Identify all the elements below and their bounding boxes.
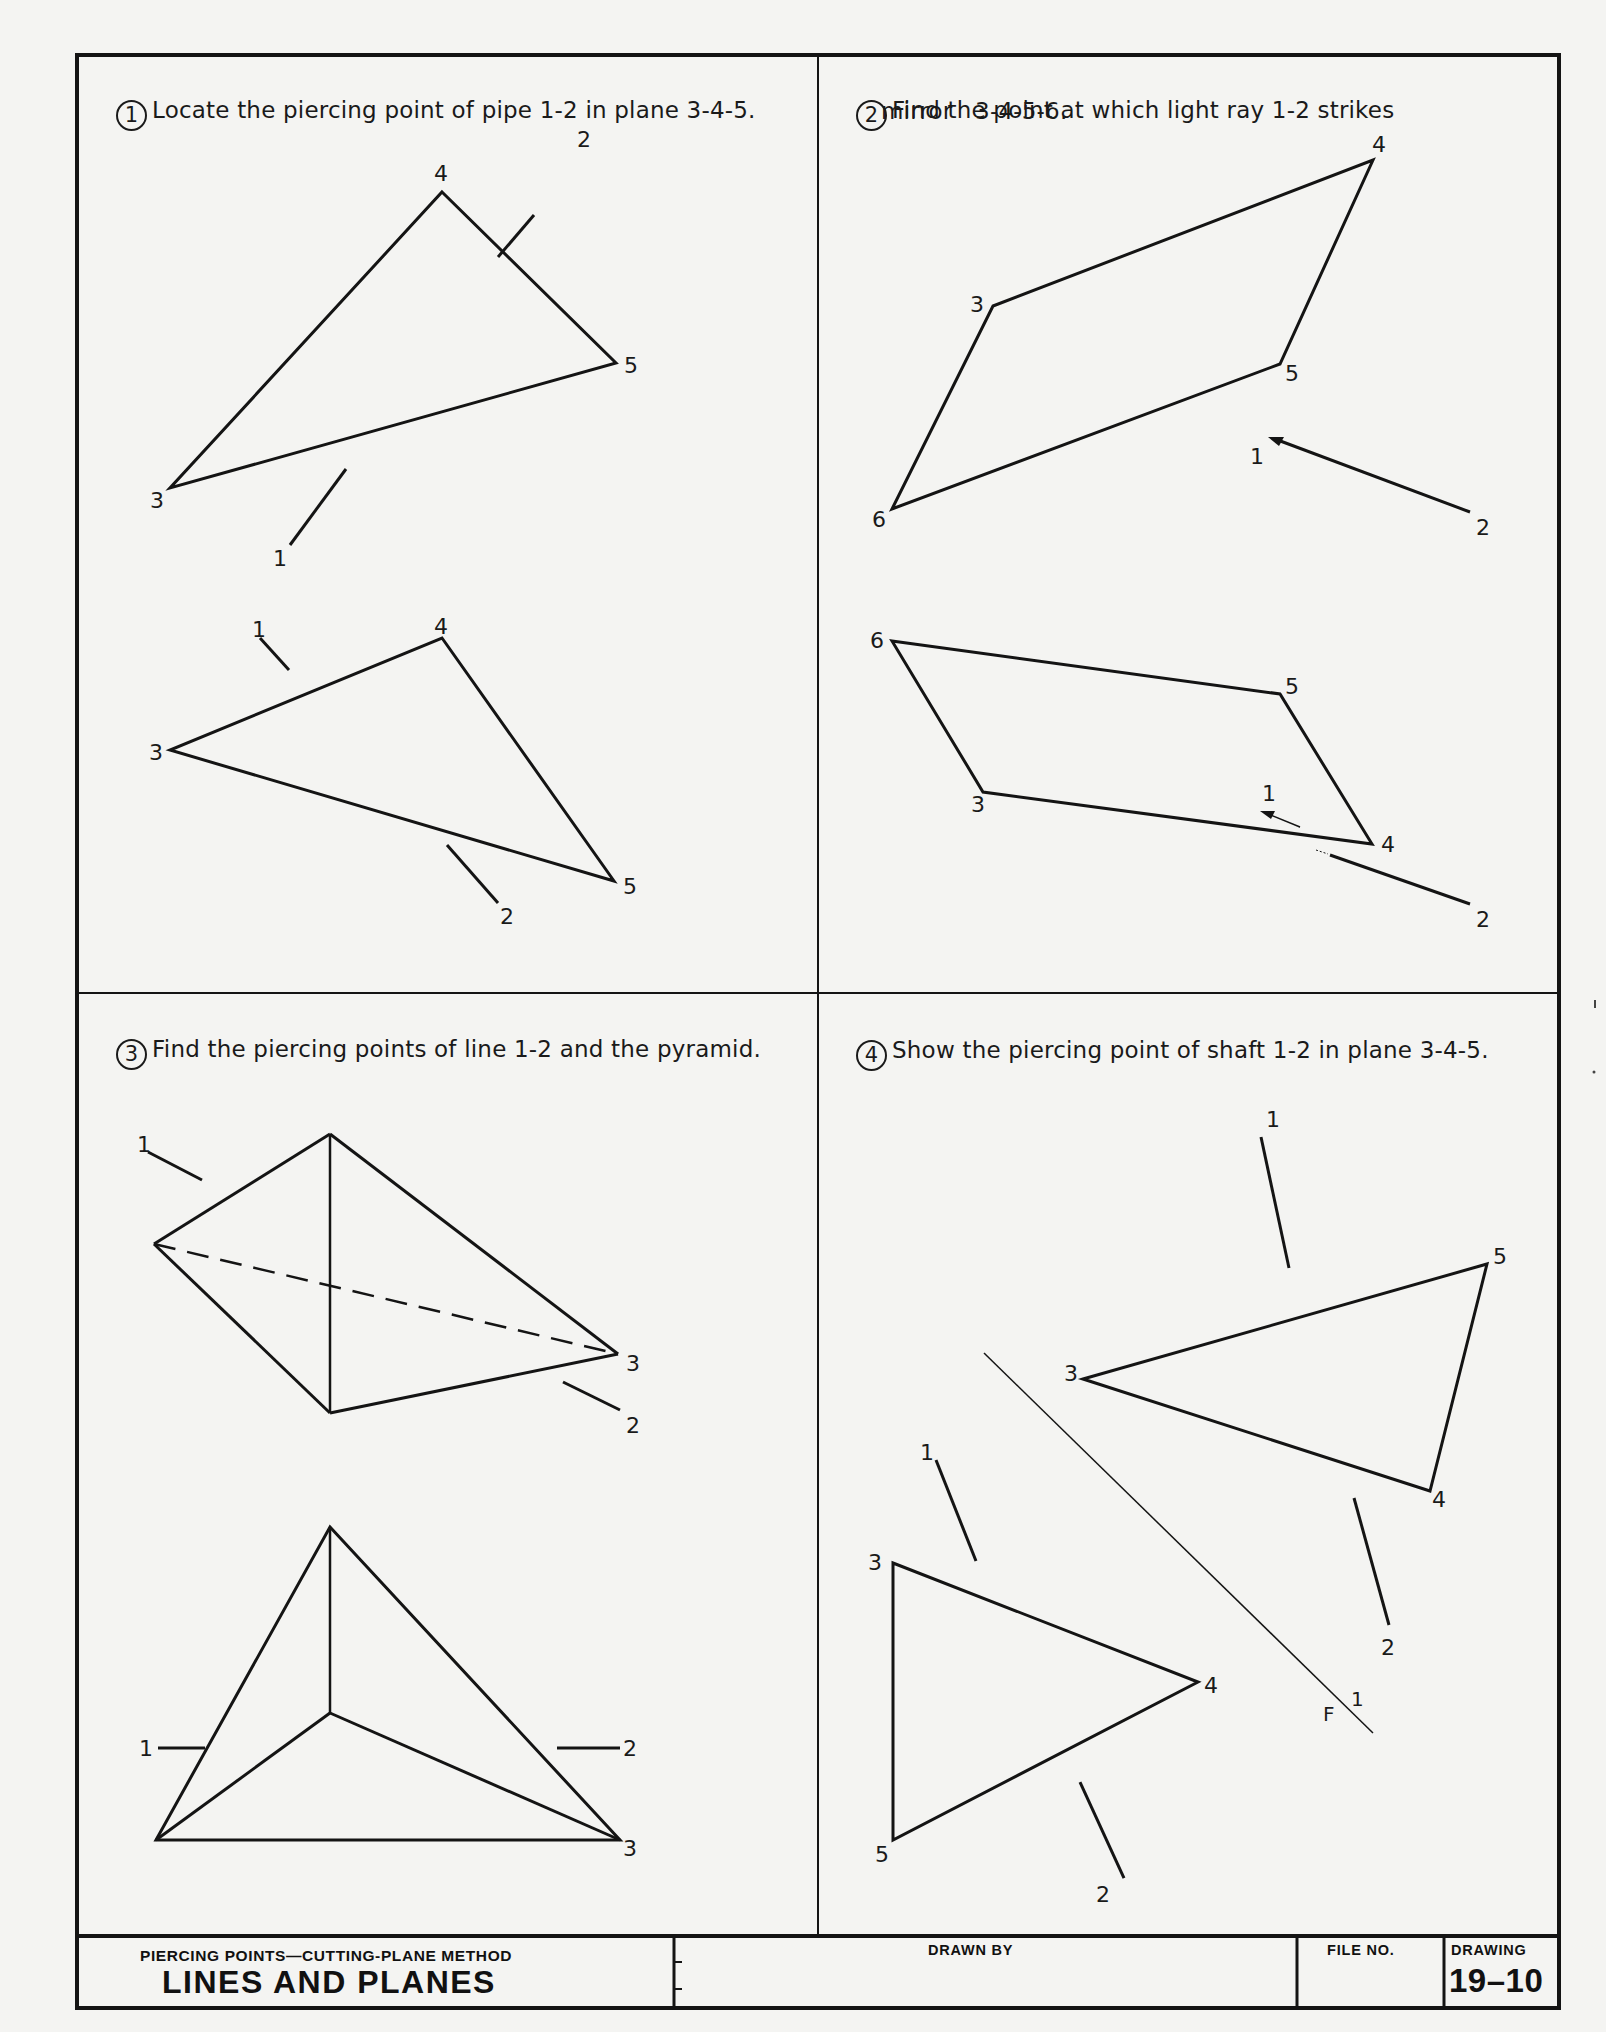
problem-1-top-labels: 2 4 5 3 1	[150, 127, 638, 571]
label-point-3: 3	[150, 488, 164, 513]
label-point-1: 1	[1250, 444, 1264, 469]
pipe-segment-2-front	[447, 845, 498, 903]
label-point-5: 5	[1493, 1244, 1507, 1269]
problem-3-top-view	[148, 1134, 620, 1413]
pipe-segment-2-top	[498, 215, 534, 257]
label-point-5: 5	[1285, 361, 1299, 386]
margin-mark	[1593, 1071, 1596, 1074]
label-point-1: 1	[273, 546, 287, 571]
problem-1-title: 1Locate the piercing point of pipe 1-2 i…	[86, 64, 756, 162]
problem-1-number: 1	[116, 100, 147, 131]
label-point-6: 6	[872, 507, 886, 532]
drawing-label: DRAWING	[1451, 1942, 1527, 1958]
problem-3-title: 3Find the piercing points of line 1-2 an…	[86, 1003, 761, 1101]
label-point-3: 3	[626, 1351, 640, 1376]
label-point-2: 2	[1096, 1882, 1110, 1907]
problem-2-title-line2: mirror 3-4-5-6.	[881, 96, 1067, 127]
label-point-4: 4	[1381, 832, 1395, 857]
label-point-1: 1	[1262, 781, 1276, 806]
problem-3-front-view	[156, 1527, 620, 1840]
problem-1-text: Locate the piercing point of pipe 1-2 in…	[152, 97, 756, 123]
plane-3-4-5-upper	[1083, 1264, 1487, 1491]
drawing-sheet: 2 4 5 3 1 1 4 3 5 2 4 3 5 1	[0, 0, 1606, 2032]
fold-label-f: F	[1323, 1702, 1335, 1726]
label-point-5: 5	[1285, 674, 1299, 699]
problem-2-front-view	[892, 641, 1470, 904]
problem-1-front-view	[170, 638, 614, 903]
label-point-3: 3	[970, 292, 984, 317]
label-point-1: 1	[920, 1440, 934, 1465]
pipe-segment-1-front	[260, 638, 289, 670]
problem-2-top-labels: 4 3 5 1 2 6	[872, 132, 1490, 540]
plane-3-4-5-lower	[893, 1563, 1198, 1840]
line-segment-1-top	[148, 1152, 202, 1180]
problem-1-top-view	[170, 192, 616, 545]
label-point-5: 5	[624, 353, 638, 378]
problem-4-lower-labels: 1 3 4 5 2	[868, 1440, 1218, 1907]
line-segment-2-top	[563, 1382, 620, 1410]
label-point-3: 3	[623, 1836, 637, 1861]
label-point-5: 5	[875, 1842, 889, 1867]
label-point-1: 1	[137, 1132, 151, 1157]
problem-1-front-labels: 1 4 3 5 2	[149, 614, 637, 929]
problem-4-title: 4Show the piercing point of shaft 1-2 in…	[826, 1004, 1489, 1102]
label-point-2: 2	[623, 1736, 637, 1761]
file-no-label: FILE NO.	[1327, 1942, 1395, 1958]
problem-4-number: 4	[856, 1040, 887, 1071]
problem-4-upper-labels: 1 5 3 4 2	[1064, 1107, 1507, 1660]
label-point-1: 1	[1266, 1107, 1280, 1132]
problem-3-text: Find the piercing points of line 1-2 and…	[152, 1036, 761, 1062]
label-point-2: 2	[1476, 515, 1490, 540]
shaft-segment-2-lower	[1080, 1782, 1124, 1878]
sheet-title: LINES AND PLANES	[162, 1964, 496, 2001]
label-point-2: 2	[626, 1413, 640, 1438]
plane-3-4-5-front	[170, 638, 614, 881]
label-point-4: 4	[1432, 1487, 1446, 1512]
label-point-4: 4	[434, 614, 448, 639]
problem-4-upper-view	[1083, 1137, 1487, 1625]
arrowhead-icon	[1260, 811, 1275, 819]
label-point-6: 6	[870, 628, 884, 653]
label-point-3: 3	[149, 740, 163, 765]
light-ray-top	[1275, 439, 1470, 512]
label-point-2: 2	[1381, 1635, 1395, 1660]
pipe-segment-1-top	[290, 469, 346, 545]
light-ray-front-short	[1268, 814, 1300, 827]
label-point-1: 1	[139, 1736, 153, 1761]
problem-4-lower-view	[893, 1460, 1198, 1878]
label-point-3: 3	[971, 792, 985, 817]
drawn-by-label: DRAWN BY	[928, 1942, 1013, 1958]
label-point-4: 4	[1204, 1673, 1218, 1698]
problem-3-number: 3	[116, 1039, 147, 1070]
problem-2-front-labels: 6 5 1 3 4 2	[870, 628, 1490, 932]
label-point-2: 2	[500, 904, 514, 929]
shaft-segment-1-lower	[936, 1460, 976, 1561]
pyramid-outline-front	[156, 1527, 620, 1840]
plane-3-4-5-top	[170, 192, 616, 488]
label-point-2: 2	[1476, 907, 1490, 932]
fold-label-1: 1	[1351, 1687, 1364, 1711]
shaft-segment-1-upper	[1261, 1137, 1289, 1268]
label-point-4: 4	[434, 161, 448, 186]
mirror-3-4-5-6-top	[892, 160, 1373, 509]
label-point-5: 5	[623, 874, 637, 899]
label-point-1: 1	[252, 617, 266, 642]
problem-4-text: Show the piercing point of shaft 1-2 in …	[892, 1037, 1489, 1063]
problem-2-top-view	[892, 160, 1470, 512]
drawing-number: 19–10	[1449, 1962, 1543, 2000]
shaft-segment-2-upper	[1354, 1498, 1389, 1625]
mirror-3-4-5-6-front	[892, 641, 1372, 844]
light-ray-front	[1330, 855, 1470, 904]
label-point-3: 3	[868, 1550, 882, 1575]
label-point-3: 3	[1064, 1361, 1078, 1386]
sheet-subtitle: PIERCING POINTS—CUTTING-PLANE METHOD	[140, 1947, 512, 1965]
